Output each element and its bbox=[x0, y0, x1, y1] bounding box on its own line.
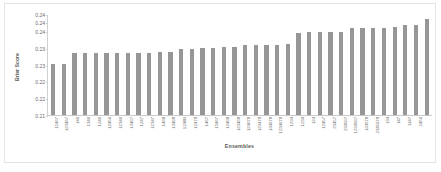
bar bbox=[382, 28, 386, 115]
x-tick-slot: 2456 bbox=[414, 117, 418, 142]
x-tick-label: 123468 bbox=[236, 117, 241, 131]
x-tick-label: 12468 bbox=[225, 117, 230, 129]
bar bbox=[371, 28, 375, 115]
x-tick-label: 123467 bbox=[64, 117, 69, 131]
x-tick-slot: 123468 bbox=[232, 117, 236, 142]
x-tick-label: 134678 bbox=[268, 117, 273, 131]
bar bbox=[179, 49, 183, 115]
x-tick-slot: 1468 bbox=[157, 117, 161, 142]
bar bbox=[232, 47, 236, 115]
x-tick-label: 1234567 bbox=[353, 117, 358, 133]
x-tick-slot: 12456 bbox=[104, 117, 108, 142]
y-tick-label: 0.24 bbox=[35, 20, 45, 26]
x-tick-label: 12478 bbox=[193, 117, 198, 129]
x-tick-label: 2345678 bbox=[375, 117, 380, 133]
y-tick-label: 0.24 bbox=[35, 12, 45, 18]
bar bbox=[425, 19, 429, 115]
x-tick-slot: 12347 bbox=[146, 117, 150, 142]
bar bbox=[51, 64, 55, 115]
x-tick-slot: 1234678 bbox=[275, 117, 279, 142]
x-tick-label: 123478 bbox=[257, 117, 262, 131]
bar bbox=[328, 32, 332, 115]
x-tick-label: 1246B bbox=[182, 117, 187, 129]
y-tick-label: 0.22 bbox=[35, 79, 45, 85]
x-tick-slot: 1346 bbox=[82, 117, 86, 142]
x-axis-tick-labels: 1246712346714613461246124561234613467124… bbox=[47, 117, 432, 142]
bar-series bbox=[48, 15, 432, 115]
bar bbox=[264, 45, 268, 115]
bar bbox=[403, 25, 407, 115]
x-tick-label: 23457 bbox=[332, 117, 337, 129]
x-tick-label: 124678 bbox=[246, 117, 251, 131]
x-tick-slot: 12346 bbox=[114, 117, 118, 142]
bar bbox=[286, 44, 290, 115]
x-tick-slot: 12457 bbox=[318, 117, 322, 142]
y-tick-mark bbox=[46, 99, 48, 100]
y-tick-mark bbox=[46, 23, 48, 24]
y-tick-mark bbox=[46, 66, 48, 67]
bar bbox=[115, 53, 119, 115]
x-tick-label: 12347 bbox=[150, 117, 155, 129]
x-tick-label: 1234678 bbox=[278, 117, 283, 133]
y-tick-label: 0.21 bbox=[35, 113, 45, 119]
bar bbox=[72, 53, 76, 115]
x-tick-slot: 234567 bbox=[339, 117, 343, 142]
x-tick-slot: 124578 bbox=[360, 117, 364, 142]
x-tick-label: 124 bbox=[311, 117, 316, 124]
x-tick-label: 13467 bbox=[214, 117, 219, 129]
x-tick-label: 12467 bbox=[54, 117, 59, 129]
bar bbox=[147, 53, 151, 115]
y-tick-mark bbox=[46, 49, 48, 50]
x-tick-slot: 1247 bbox=[136, 117, 140, 142]
x-tick-slot: 123478 bbox=[253, 117, 257, 142]
x-tick-slot: 1147 bbox=[403, 117, 407, 142]
bar bbox=[190, 49, 194, 115]
x-tick-label: 1247 bbox=[139, 117, 144, 126]
bar bbox=[350, 28, 354, 115]
x-tick-slot: 13468 bbox=[168, 117, 172, 142]
x-tick-slot: 13467 bbox=[125, 117, 129, 142]
x-tick-slot: 12478 bbox=[189, 117, 193, 142]
x-tick-slot: 13467 bbox=[211, 117, 215, 142]
y-tick-label: 0.24 bbox=[35, 29, 45, 35]
x-tick-label: 1246 bbox=[97, 117, 102, 126]
x-tick-label: 13468 bbox=[171, 117, 176, 129]
bar bbox=[243, 45, 247, 115]
x-tick-slot: 134 bbox=[382, 117, 386, 142]
x-tick-label: 1147 bbox=[407, 117, 412, 126]
x-tick-slot: 1234 bbox=[296, 117, 300, 142]
y-tick-label: 0.22 bbox=[35, 96, 45, 102]
x-tick-label: 146 bbox=[75, 117, 80, 124]
x-tick-slot: 1234567 bbox=[350, 117, 354, 142]
x-tick-label: 1234 bbox=[300, 117, 305, 126]
x-tick-slot: 23457 bbox=[328, 117, 332, 142]
bar bbox=[254, 45, 258, 115]
x-tick-label: 124578 bbox=[364, 117, 369, 131]
y-axis-tick-labels: 0.210.220.220.230.230.240.240.24 bbox=[24, 15, 46, 116]
bar bbox=[136, 53, 140, 115]
bar bbox=[222, 47, 226, 115]
y-tick-mark bbox=[46, 82, 48, 83]
x-tick-slot: 123467 bbox=[61, 117, 65, 142]
x-tick-slot: 124 bbox=[307, 117, 311, 142]
chart-figure: Brier Score 0.210.220.220.230.230.240.24… bbox=[0, 0, 441, 172]
bar bbox=[94, 53, 98, 115]
x-tick-label: 12457 bbox=[321, 117, 326, 129]
x-tick-label: 12456 bbox=[107, 117, 112, 129]
x-tick-label: 1346 bbox=[86, 117, 91, 126]
x-tick-label: 134 bbox=[385, 117, 390, 124]
bar bbox=[211, 48, 215, 115]
bar bbox=[168, 52, 172, 115]
bar bbox=[318, 32, 322, 115]
y-tick-mark bbox=[46, 32, 48, 33]
bar bbox=[126, 53, 130, 115]
bar bbox=[360, 28, 364, 115]
bar bbox=[414, 25, 418, 115]
bar bbox=[339, 32, 343, 115]
x-tick-slot: 124678 bbox=[243, 117, 247, 142]
bar bbox=[296, 33, 300, 115]
x-tick-slot: 1246 bbox=[93, 117, 97, 142]
x-tick-slot: 1234 bbox=[285, 117, 289, 142]
x-tick-label: 147 bbox=[396, 117, 401, 124]
bar bbox=[307, 32, 311, 115]
